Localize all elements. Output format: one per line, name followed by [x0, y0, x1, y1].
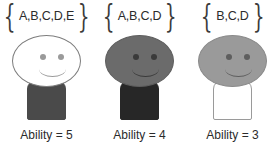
set-label-3: { B,C,D } — [186, 2, 279, 30]
figure-group-3: { B,C,D } Ability = 3 — [186, 0, 279, 155]
ability-caption-1: Ability = 5 — [0, 128, 93, 142]
figure-group-1: { A,B,C,D,E } Ability = 5 — [0, 0, 93, 155]
right-eye-1 — [58, 54, 64, 60]
set-label-2: { A,B,C,D } — [93, 2, 186, 30]
set-members-2: A,B,C,D — [117, 9, 163, 23]
set-label-1: { A,B,C,D,E } — [0, 2, 93, 30]
figure-group-2: { A,B,C,D } Ability = 4 — [93, 0, 186, 155]
left-eye-3 — [226, 54, 232, 60]
set-members-3: B,C,D — [215, 9, 249, 23]
set-members-1: A,B,C,D,E — [18, 9, 75, 23]
brace-close-icon-1: } — [78, 0, 90, 32]
ability-caption-2: Ability = 4 — [93, 128, 186, 142]
person-figure-3 — [186, 34, 279, 122]
person-head-1 — [12, 35, 81, 87]
diagram-canvas: { A,B,C,D,E } Ability = 5 { A,B,C,D } — [0, 0, 279, 155]
smile-mouth-1 — [39, 61, 66, 77]
brace-open-icon-3: { — [201, 0, 213, 32]
brace-open-icon-1: { — [3, 0, 15, 32]
ability-caption-3: Ability = 3 — [186, 128, 279, 142]
smile-mouth-3 — [225, 61, 252, 77]
right-eye-3 — [244, 54, 250, 60]
right-eye-2 — [151, 54, 157, 60]
person-head-3 — [198, 35, 267, 87]
left-eye-1 — [40, 54, 46, 60]
left-eye-2 — [133, 54, 139, 60]
brace-open-icon-2: { — [102, 0, 114, 32]
smile-mouth-2 — [132, 61, 159, 77]
person-figure-1 — [0, 34, 93, 122]
brace-close-icon-3: } — [252, 0, 264, 32]
person-figure-2 — [93, 34, 186, 122]
brace-close-icon-2: } — [165, 0, 177, 32]
person-head-2 — [105, 35, 174, 87]
